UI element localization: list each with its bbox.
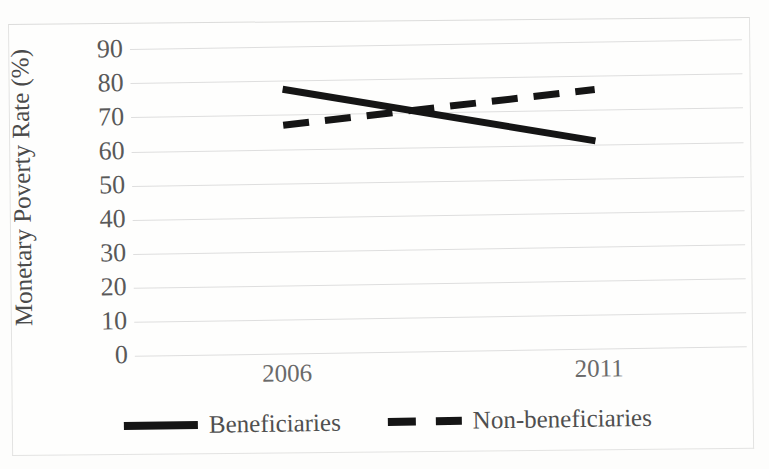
y-tick-60: 60 [64,138,124,165]
y-tick-80: 80 [63,70,123,97]
x-tick-2011: 2011 [529,353,669,383]
legend-label-non-beneficiaries: Non-beneficiaries [473,404,652,435]
y-tick-70: 70 [64,104,124,131]
legend-item-non-beneficiaries: Non-beneficiaries [387,404,652,436]
y-tick-30: 30 [66,240,126,267]
legend-swatch-solid-line-icon [123,415,199,436]
y-tick-90: 90 [63,36,123,63]
series-canvas [130,39,747,357]
chart-content: Monetary Poverty Rate (%) 90 80 70 60 50… [0,0,769,469]
legend-swatch-dashed-line-icon [387,411,463,432]
legend-item-beneficiaries: Beneficiaries [123,409,341,440]
y-tick-0: 0 [68,342,128,369]
y-tick-50: 50 [65,172,125,199]
y-axis-label: Monetary Poverty Rate (%) [6,22,39,352]
plot-area [130,39,747,357]
y-axis-ticks: 90 80 70 60 50 40 30 20 10 0 [55,49,128,358]
legend-label-beneficiaries: Beneficiaries [209,409,341,439]
y-tick-10: 10 [67,308,127,335]
chart-legend: Beneficiaries Non-beneficiaries [3,402,769,442]
y-tick-40: 40 [65,206,125,233]
x-tick-2006: 2006 [217,358,357,388]
y-tick-20: 20 [67,274,127,301]
chart-figure: Monetary Poverty Rate (%) 90 80 70 60 50… [0,0,769,469]
